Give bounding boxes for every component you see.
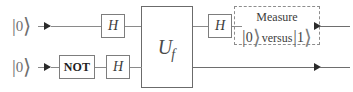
- measurement-region[interactable]: Measure |0⟩versus|1⟩: [234, 6, 320, 45]
- quantum-circuit-figure: |0⟩ H Uf H Measure |0⟩versus|1⟩ |0⟩ NOT: [0, 0, 353, 92]
- wire-top-oracle-to-h2: [193, 26, 208, 27]
- input-ket-qubit-top: |0⟩: [12, 16, 31, 37]
- ket-one-digit: 1: [297, 30, 304, 45]
- gate-label: H: [215, 18, 225, 34]
- arrowhead-top-input: [44, 22, 51, 30]
- oracle-subscript: f: [171, 47, 175, 62]
- wire-top-h1-to-oracle: [125, 26, 142, 27]
- arrowhead-bottom-input: [44, 63, 51, 71]
- oracle-label: Uf: [158, 36, 176, 59]
- gate-hadamard-bottom[interactable]: H: [106, 55, 130, 79]
- ket-angle: ⟩: [23, 55, 31, 79]
- ket-zero-digit: 0: [246, 30, 253, 45]
- wire-top-to-h1: [51, 26, 101, 27]
- wire-bottom-not-to-h: [95, 67, 106, 68]
- wire-bottom-output-tail: [320, 67, 350, 68]
- ket-angle: ⟩: [23, 14, 31, 38]
- ket-one-angle: ⟩: [304, 26, 312, 48]
- ket-zero-angle: ⟩: [253, 26, 261, 48]
- wire-bottom-to-not: [51, 67, 59, 68]
- gate-label: H: [113, 59, 123, 75]
- measure-connector: versus: [261, 31, 294, 45]
- wire-top-output: [320, 26, 350, 27]
- wire-bottom-output: [193, 67, 317, 68]
- gate-not-bottom[interactable]: NOT: [59, 55, 95, 79]
- gate-oracle-uf[interactable]: Uf: [141, 6, 193, 88]
- input-ket-qubit-bottom: |0⟩: [12, 57, 31, 78]
- gate-hadamard-top-right[interactable]: H: [208, 14, 232, 38]
- gate-hadamard-top-left[interactable]: H: [101, 14, 125, 38]
- wire-bottom-h-to-oracle: [130, 67, 142, 68]
- gate-label: NOT: [64, 60, 91, 75]
- gate-label: H: [108, 18, 118, 34]
- measure-expression: |0⟩versus|1⟩: [235, 27, 319, 47]
- measure-title: Measure: [235, 11, 319, 23]
